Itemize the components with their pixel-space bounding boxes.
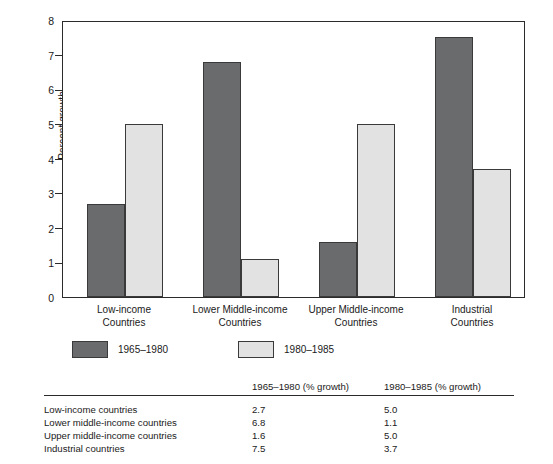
bar-series-b — [357, 124, 395, 297]
bar-series-b — [473, 169, 511, 297]
table-row: Industrial countries7.53.7 — [44, 442, 514, 455]
x-axis-category-label-line: Industrial — [392, 304, 552, 317]
bar-series-b — [241, 259, 279, 297]
bar-series-a — [319, 242, 357, 297]
y-axis-tick-label: 2 — [32, 224, 54, 234]
table-cell-period-1: 6.8 — [252, 416, 384, 429]
data-table: 1965–1980 (% growth) 1980–1985 (% growth… — [44, 381, 514, 455]
table-row: Lower middle-income countries6.81.1 — [44, 416, 514, 429]
table-cell-period-2: 5.0 — [384, 396, 514, 417]
table-cell-period-2: 5.0 — [384, 429, 514, 442]
y-axis-tick-label: 4 — [32, 155, 54, 165]
table-cell-period-2: 3.7 — [384, 442, 514, 455]
y-axis-tick-label: 5 — [32, 120, 54, 130]
legend-item-series-a: 1965–1980 — [72, 341, 168, 358]
table-row: Low-income countries2.75.0 — [44, 396, 514, 417]
y-axis-tick-label: 6 — [32, 85, 54, 95]
x-axis-category-label-line: Countries — [392, 317, 552, 330]
chart-legend: 1965–1980 1980–1985 — [72, 341, 334, 358]
plot-area — [62, 21, 525, 298]
table-row: Upper middle-income countries1.65.0 — [44, 429, 514, 442]
table-cell-period-1: 7.5 — [252, 442, 384, 455]
table-cell-label: Low-income countries — [44, 396, 252, 417]
y-axis-tick-label: 0 — [32, 293, 54, 303]
table-header-period-1: 1965–1980 (% growth) — [252, 381, 384, 396]
table-cell-label: Lower middle-income countries — [44, 416, 252, 429]
table-cell-period-1: 2.7 — [252, 396, 384, 417]
table-header-label — [44, 381, 252, 396]
table-header-row: 1965–1980 (% growth) 1980–1985 (% growth… — [44, 381, 514, 396]
bar-series-a — [203, 62, 241, 297]
x-axis-category-label: IndustrialCountries — [392, 304, 552, 329]
table-cell-period-2: 1.1 — [384, 416, 514, 429]
bar-series-a — [87, 204, 125, 297]
table-cell-period-1: 1.6 — [252, 429, 384, 442]
y-axis-tick-label: 7 — [32, 51, 54, 61]
table-body: Low-income countries2.75.0Lower middle-i… — [44, 396, 514, 456]
table-header: 1965–1980 (% growth) 1980–1985 (% growth… — [44, 381, 514, 396]
bar-series-b — [125, 124, 163, 297]
legend-swatch-series-b — [238, 341, 274, 358]
y-axis-tick-label: 3 — [32, 189, 54, 199]
legend-label-series-b: 1980–1985 — [284, 344, 334, 355]
y-axis-tick-label: 8 — [32, 16, 54, 26]
legend-swatch-series-a — [72, 341, 108, 358]
table-header-period-2: 1980–1985 (% growth) — [384, 381, 514, 396]
table-cell-label: Upper middle-income countries — [44, 429, 252, 442]
bar-series-a — [435, 37, 473, 297]
legend-item-series-b: 1980–1985 — [238, 341, 334, 358]
growth-table: 1965–1980 (% growth) 1980–1985 (% growth… — [44, 381, 514, 455]
legend-label-series-a: 1965–1980 — [118, 344, 168, 355]
table-cell-label: Industrial countries — [44, 442, 252, 455]
y-axis-tick-label: 1 — [32, 258, 54, 268]
